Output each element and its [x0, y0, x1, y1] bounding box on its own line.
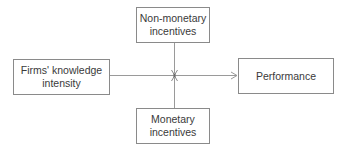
diagram-canvas: Non-monetary incentives Firms' knowledge…	[0, 0, 344, 150]
performance-box: Performance	[238, 58, 334, 94]
intersection-mark	[174, 74, 176, 78]
node-label-line: Firms' knowledge	[21, 64, 102, 77]
node-label-line: intensity	[21, 77, 102, 90]
node-label-line: incentives	[140, 25, 207, 38]
monetary-incentives-box: Monetary incentives	[136, 108, 210, 144]
firms-knowledge-intensity-box: Firms' knowledge intensity	[13, 59, 110, 95]
node-label-line: Monetary	[150, 113, 197, 126]
node-label-line: Non-monetary	[140, 12, 207, 25]
node-label-line: incentives	[150, 126, 197, 139]
node-label-line: Performance	[256, 70, 316, 83]
non-monetary-incentives-box: Non-monetary incentives	[136, 7, 210, 43]
